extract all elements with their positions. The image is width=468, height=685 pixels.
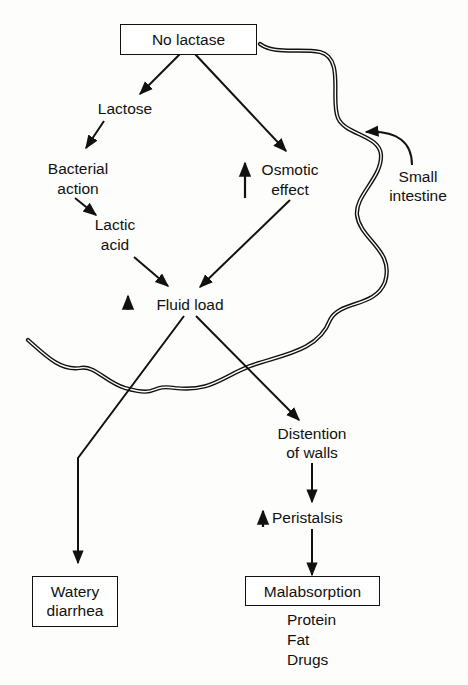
small-intestine-pointer: [366, 132, 412, 165]
node-malabsorption: Malabsorption: [245, 582, 380, 601]
label-small-intestine-line2: intestine: [378, 186, 458, 205]
diagram-canvas: No lactase Lactose Bacterial action Lact…: [0, 0, 468, 685]
malabsorbed-drugs: Drugs: [287, 650, 328, 669]
node-osmotic-effect-line2: effect: [250, 180, 330, 199]
malabsorbed-protein: Protein: [287, 610, 336, 629]
node-bacterial-action-line2: action: [33, 179, 123, 198]
node-distention-line1: Distention: [262, 424, 362, 443]
malabsorbed-fat: Fat: [287, 630, 309, 649]
node-watery-diarrhea-line1: Watery: [32, 582, 118, 601]
node-lactic-acid-line2: acid: [75, 235, 155, 254]
node-lactic-acid-line1: Lactic: [75, 215, 155, 234]
label-small-intestine-line1: Small: [378, 167, 458, 186]
node-watery-diarrhea-line2: diarrhea: [32, 601, 118, 620]
node-osmotic-effect-line1: Osmotic: [250, 160, 330, 179]
node-no-lactase: No lactase: [120, 30, 257, 49]
node-peristalsis: Peristalsis: [272, 508, 343, 527]
node-bacterial-action-line1: Bacterial: [33, 159, 123, 178]
node-distention-line2: of walls: [262, 443, 362, 462]
node-lactose: Lactose: [80, 99, 170, 118]
node-fluid-load: Fluid load: [140, 295, 240, 314]
